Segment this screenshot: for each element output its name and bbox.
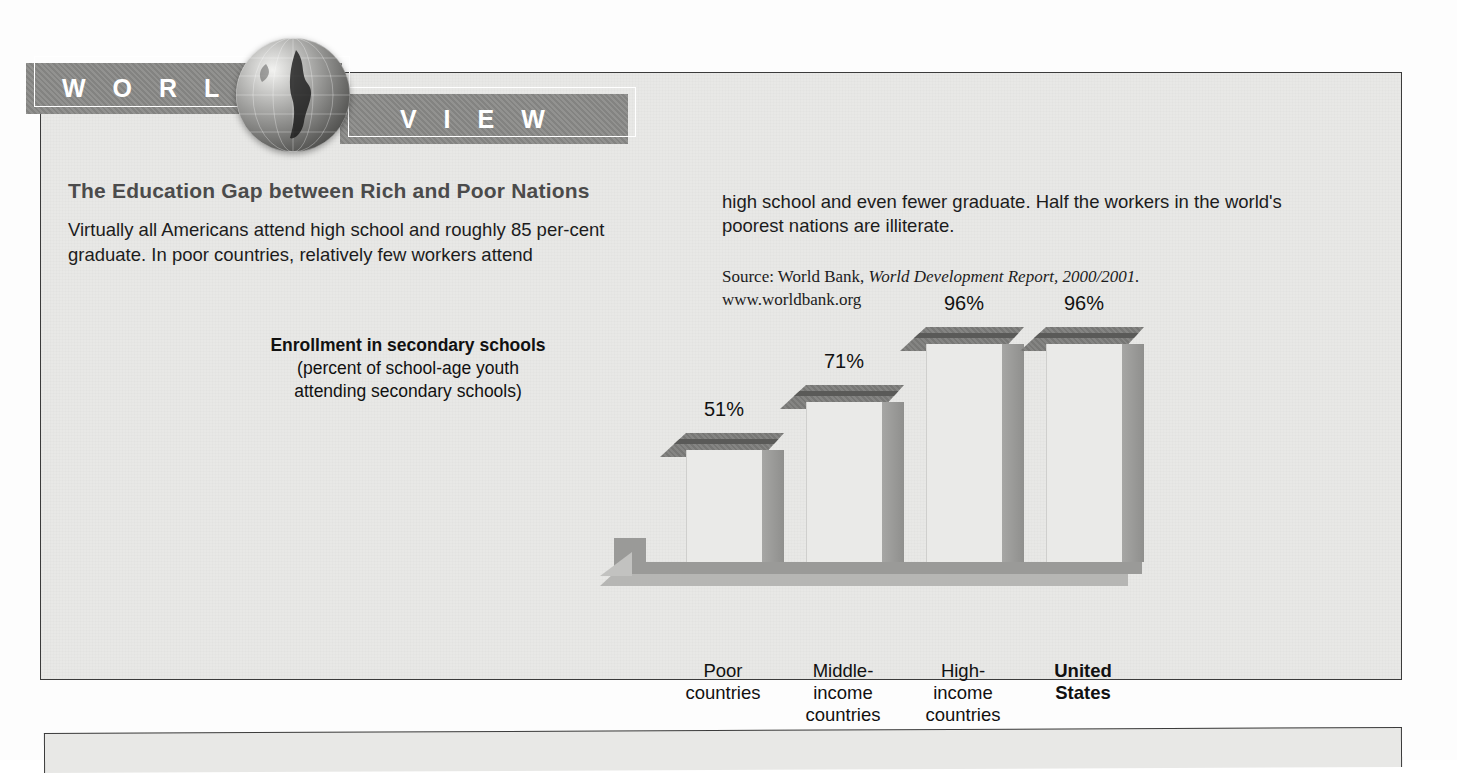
bar-middle-income-countries: 71%	[806, 402, 882, 562]
right-paragraph: high school and even fewer graduate. Hal…	[722, 190, 1332, 239]
chart-floor-front	[600, 573, 1128, 586]
chart-title: Enrollment in secondary schools	[218, 334, 598, 357]
bar-side-face	[882, 402, 904, 562]
bar-front-face	[686, 450, 762, 562]
bar-poor-countries: 51%	[686, 450, 762, 562]
bar-side-face	[1122, 344, 1144, 562]
bar-side-face	[1002, 344, 1024, 562]
globe-icon	[236, 38, 350, 152]
banner-bar-view: V I E W	[340, 94, 628, 144]
page-title: The Education Gap between Rich and Poor …	[68, 178, 668, 204]
bar-top-edge	[780, 391, 904, 396]
bar-value-label: 71%	[824, 350, 864, 373]
chart-plot-area: 51% 71% 96%	[600, 270, 1160, 600]
x-label-middle-income-countries: Middle- income countries	[784, 660, 902, 727]
bar-top-edge	[900, 333, 1024, 338]
bar-front-face	[1046, 344, 1122, 562]
world-view-banner: W O R L D V I E W	[0, 0, 720, 150]
bar-top-edge	[660, 439, 784, 444]
bar-side-face	[762, 450, 784, 562]
chart: Enrollment in secondary schools (percent…	[60, 270, 1350, 600]
bar-united-states: 96%	[1046, 344, 1122, 562]
left-paragraph: Virtually all Americans attend high scho…	[68, 218, 668, 267]
bar-front-face	[926, 344, 1002, 562]
chart-subtitle-line1: (percent of school-age youth	[218, 357, 598, 380]
bar-high-income-countries: 96%	[926, 344, 1002, 562]
bar-value-label: 96%	[944, 292, 984, 315]
chart-caption: Enrollment in secondary schools (percent…	[218, 334, 598, 402]
x-label-high-income-countries: High- income countries	[904, 660, 1022, 727]
chart-axis-origin-block	[614, 538, 646, 562]
bar-value-label: 51%	[704, 398, 744, 421]
banner-word-view: V I E W	[340, 105, 555, 134]
bar-front-face	[806, 402, 882, 562]
bar-value-label: 96%	[1064, 292, 1104, 315]
x-label-poor-countries: Poor countries	[664, 660, 782, 704]
x-label-united-states: United States	[1024, 660, 1142, 704]
chart-floor	[614, 562, 1142, 574]
next-panel-edge	[44, 727, 1402, 773]
chart-subtitle-line2: attending secondary schools)	[218, 380, 598, 403]
bar-top-edge	[1020, 333, 1144, 338]
article-left-column: The Education Gap between Rich and Poor …	[68, 178, 668, 267]
